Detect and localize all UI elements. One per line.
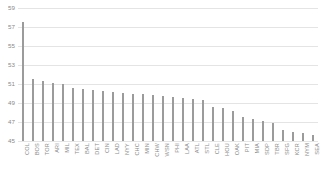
x-axis-tick-label: SFG — [285, 143, 291, 177]
x-axis-tick-label: BAL — [85, 143, 91, 177]
bar — [42, 81, 45, 141]
bar — [292, 132, 295, 141]
y-axis-tick-label: 47 — [8, 119, 15, 125]
plot-area — [18, 8, 318, 141]
x-axis-tick-label: PIT — [245, 143, 251, 177]
bar — [202, 100, 205, 141]
bar — [172, 97, 175, 141]
x-axis-tick-label: SEA — [315, 143, 321, 177]
bar — [52, 83, 55, 141]
x-axis-tick-label: ARI — [55, 143, 61, 177]
bar — [272, 123, 275, 141]
bar — [142, 94, 145, 141]
bar — [242, 117, 245, 141]
bar — [82, 89, 85, 141]
bar — [152, 95, 155, 141]
y-axis-tick-label: 55 — [8, 43, 15, 49]
x-axis-tick-label: COL — [25, 143, 31, 177]
bar — [112, 92, 115, 141]
bar — [132, 94, 135, 142]
x-axis-tick-label: BOS — [35, 143, 41, 177]
bar — [62, 84, 65, 141]
x-axis-tick-label: HOU — [225, 143, 231, 177]
bar — [222, 108, 225, 141]
x-axis: COLBOSTORARIMILTEXBALDETCINLADNYYCHCMINC… — [18, 141, 318, 177]
y-axis-tick-label: 51 — [8, 81, 15, 87]
bar — [252, 119, 255, 141]
x-axis-tick-label: NYY — [125, 143, 131, 177]
bar — [232, 111, 235, 141]
bar — [262, 121, 265, 141]
x-axis-tick-label: PHI — [175, 143, 181, 177]
x-axis-tick-label: CIN — [105, 143, 111, 177]
bar — [212, 107, 215, 141]
x-axis-tick-label: NYM — [305, 143, 311, 177]
x-axis-tick-label: KCR — [295, 143, 301, 177]
bar-series — [18, 8, 318, 141]
x-axis-tick-label: CHW — [155, 143, 161, 177]
x-axis-tick-label: CLE — [215, 143, 221, 177]
bar — [72, 88, 75, 141]
bar — [102, 91, 105, 141]
bar — [302, 133, 305, 141]
x-axis-tick-label: TOR — [45, 143, 51, 177]
y-axis-tick-label: 49 — [8, 100, 15, 106]
bar — [22, 22, 25, 141]
bar-chart: 5957555351494745 COLBOSTORARIMILTEXBALDE… — [0, 0, 324, 177]
x-axis-tick-label: LAD — [115, 143, 121, 177]
x-axis-tick-label: LAA — [185, 143, 191, 177]
bar — [192, 99, 195, 141]
x-axis-tick-label: TEX — [75, 143, 81, 177]
y-axis-tick-label: 53 — [8, 62, 15, 68]
bar — [122, 93, 125, 141]
bar — [162, 96, 165, 141]
x-axis-tick-label: STL — [205, 143, 211, 177]
y-axis: 5957555351494745 — [0, 0, 18, 149]
x-axis-tick-label: DET — [95, 143, 101, 177]
x-axis-tick-label: CHC — [135, 143, 141, 177]
x-axis-tick-label: MIL — [65, 143, 71, 177]
bar — [92, 90, 95, 141]
x-axis-tick-label: OAK — [235, 143, 241, 177]
y-axis-tick-label: 45 — [8, 138, 15, 144]
bar — [182, 98, 185, 141]
bar — [282, 130, 285, 141]
x-axis-tick-label: TBR — [275, 143, 281, 177]
x-axis-tick-label: MIA — [255, 143, 261, 177]
x-axis-tick-label: WSN — [165, 143, 171, 177]
x-axis-tick-label: SDP — [265, 143, 271, 177]
y-axis-tick-label: 59 — [8, 5, 15, 11]
x-axis-tick-label: MIN — [145, 143, 151, 177]
x-axis-tick-label: ATL — [195, 143, 201, 177]
y-axis-tick-label: 57 — [8, 24, 15, 30]
bar — [32, 79, 35, 141]
